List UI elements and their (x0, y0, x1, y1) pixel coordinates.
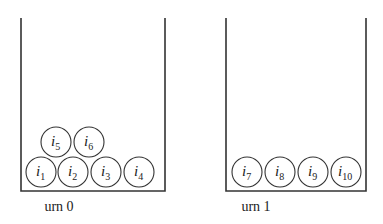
urn-diagram: i1i2i3i4i5i6i7i8i9i10 (0, 0, 383, 224)
urn-1-label: urn 1 (216, 199, 296, 215)
ball-i2: i2 (58, 157, 88, 187)
ball-i6: i6 (74, 127, 104, 157)
urn-0: i1i2i3i4i5i6 (21, 18, 165, 191)
ball-i1: i1 (26, 157, 56, 187)
urn-1: i7i8i9i10 (226, 18, 366, 191)
ball-i9: i9 (298, 157, 328, 187)
ball-i5: i5 (41, 127, 71, 157)
ball-i8: i8 (265, 157, 295, 187)
urn-0-label: urn 0 (19, 199, 99, 215)
ball-i3: i3 (91, 157, 121, 187)
ball-i7: i7 (232, 157, 262, 187)
ball-i10: i10 (331, 157, 361, 187)
ball-i4: i4 (124, 157, 154, 187)
